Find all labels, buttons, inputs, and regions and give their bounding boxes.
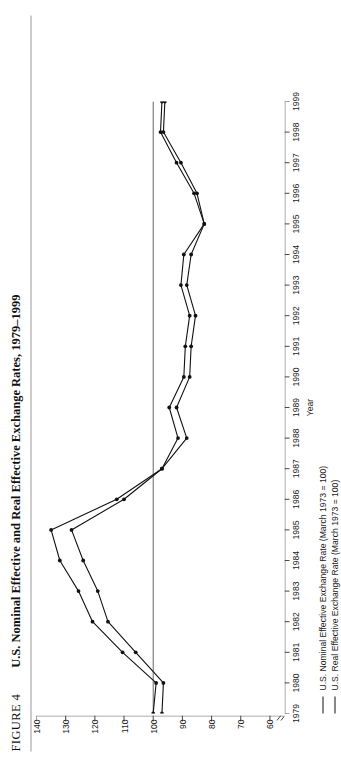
x-axis-tick-label: 1985 xyxy=(290,520,300,539)
x-axis-tick-label: 1993 xyxy=(290,275,300,294)
x-axis-tick-label: 1981 xyxy=(290,642,300,661)
y-axis-ticks xyxy=(36,715,284,723)
chart-legend: U.S. Nominal Effective Exchange Rate (Ma… xyxy=(316,465,340,713)
x-axis-tick-label: 1984 xyxy=(290,550,300,569)
y-axis-tick-label: 140 xyxy=(31,719,41,733)
y-axis-tick-label: 110 xyxy=(119,719,129,733)
x-axis-tick-label: 1999 xyxy=(290,91,300,110)
y-axis-tick-label: 80 xyxy=(206,719,216,729)
x-axis: Year 19791980198119821983198419851986198… xyxy=(286,101,314,713)
y-axis-tick-label: 90 xyxy=(177,719,187,729)
x-axis-tick-label: 1988 xyxy=(290,428,300,447)
x-axis-tick-label: 1994 xyxy=(290,244,300,263)
x-axis-tick-label: 1980 xyxy=(290,673,300,692)
x-axis-tick-label: 1987 xyxy=(290,459,300,478)
x-axis-title: Year xyxy=(304,398,314,415)
y-axis-labels: 14013012011010090807060 xyxy=(36,715,284,747)
x-axis-tick-label: 1983 xyxy=(290,581,300,600)
x-axis-tick-label: 1996 xyxy=(290,183,300,202)
line-chart xyxy=(36,101,284,713)
x-axis-tick-label: 1989 xyxy=(290,397,300,416)
y-axis-tick-label: 100 xyxy=(148,719,158,733)
legend-item-real: U.S. Real Effective Exchange Rate (March… xyxy=(328,465,340,713)
legend-label-nominal: U.S. Nominal Effective Exchange Rate (Ma… xyxy=(317,465,327,690)
legend-label-real: U.S. Real Effective Exchange Rate (March… xyxy=(329,479,339,690)
chart-plot-area xyxy=(36,101,284,713)
x-axis-tick-label: 1982 xyxy=(290,612,300,631)
x-axis-tick-label: 1991 xyxy=(290,336,300,355)
y-axis-tick-label: 70 xyxy=(235,719,245,729)
x-axis-tick-label: 1997 xyxy=(290,153,300,172)
x-axis-tick-label: 1998 xyxy=(290,122,300,141)
figure-number: FIGURE 4 xyxy=(8,693,22,751)
legend-line-swatch-nominal xyxy=(322,696,323,713)
x-axis-tick-label: 1990 xyxy=(290,367,300,386)
x-axis-ticks xyxy=(284,101,290,713)
y-axis-tick-label: 130 xyxy=(60,719,70,733)
y-axis-tick-label: 120 xyxy=(89,719,99,733)
legend-item-nominal: U.S. Nominal Effective Exchange Rate (Ma… xyxy=(316,465,328,713)
x-axis-tick-label: 1986 xyxy=(290,489,300,508)
figure-title: FIGURE 4U.S. Nominal Effective and Real … xyxy=(8,294,23,751)
legend-line-swatch-real xyxy=(334,696,335,713)
y-axis-tick-label: 60 xyxy=(264,719,274,729)
x-axis-tick-label: 1995 xyxy=(290,214,300,233)
title-divider xyxy=(30,15,31,751)
figure-page: FIGURE 4U.S. Nominal Effective and Real … xyxy=(0,0,341,775)
x-axis-tick-label: 1979 xyxy=(290,703,300,722)
figure-title-text: U.S. Nominal Effective and Real Effectiv… xyxy=(8,294,22,667)
x-axis-tick-label: 1992 xyxy=(290,306,300,325)
